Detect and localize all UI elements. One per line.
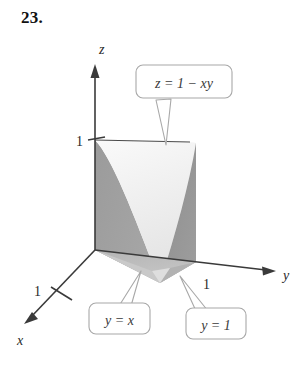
z-axis-tick-label: 1	[76, 134, 83, 149]
callout-plane-y-equals-1[interactable]: y = 1	[180, 276, 246, 339]
callout-plane-y1-label: y = 1	[199, 318, 231, 333]
callout-surface-equation[interactable]: z = 1 − xy	[136, 65, 232, 145]
x-axis-tick-label: 1	[34, 284, 41, 299]
three-dimensional-figure: z 1 y 1 x 1 z = 1 − xy	[0, 0, 308, 373]
z-axis-label: z	[98, 42, 105, 57]
x-axis: x 1	[16, 250, 95, 348]
y-axis-label: y	[281, 268, 290, 283]
callout-plane-yx-label: y = x	[103, 313, 135, 328]
x-axis-label: x	[16, 333, 24, 348]
callout-surface-label: z = 1 − xy	[154, 76, 214, 91]
callout-plane-y-equals-x[interactable]: y = x	[89, 271, 150, 334]
figure-container: 23.	[0, 0, 308, 373]
y-axis-tick-label: 1	[203, 277, 210, 292]
